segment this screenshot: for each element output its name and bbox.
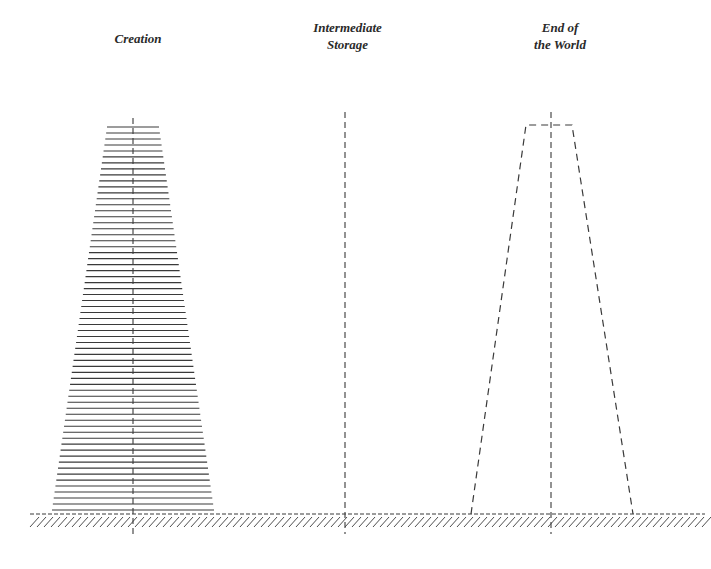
ground-hatch (79, 517, 88, 527)
ground-hatch (135, 517, 144, 527)
ground-hatch (702, 517, 711, 527)
ground-hatch (464, 517, 473, 527)
ground-hatch (30, 517, 39, 527)
ground-hatch (646, 517, 655, 527)
ground-hatch (401, 517, 410, 527)
ground-hatch (541, 517, 550, 527)
ground-hatch (37, 517, 46, 527)
ground-hatch (100, 517, 109, 527)
ground-hatch (352, 517, 361, 527)
ground-hatch (254, 517, 263, 527)
ground-hatch (142, 517, 151, 527)
ground-hatch (156, 517, 165, 527)
ground-hatch (667, 517, 676, 527)
ground-hatch (191, 517, 200, 527)
ground-hatch (310, 517, 319, 527)
ground-line (30, 514, 711, 527)
ground-hatch (478, 517, 487, 527)
ground-hatch (380, 517, 389, 527)
ground-hatch (681, 517, 690, 527)
ground-hatch (450, 517, 459, 527)
ground-hatch (632, 517, 641, 527)
ground-hatch (198, 517, 207, 527)
ground-hatch (282, 517, 291, 527)
ground-hatch (604, 517, 613, 527)
ground-hatch (219, 517, 228, 527)
end-trapezoid (471, 125, 633, 514)
ground-hatch (149, 517, 158, 527)
ground-hatch (562, 517, 571, 527)
ground-hatch (576, 517, 585, 527)
ground-hatch (387, 517, 396, 527)
ground-hatch (303, 517, 312, 527)
ground-hatch (429, 517, 438, 527)
ground-hatch (436, 517, 445, 527)
ground-hatch (226, 517, 235, 527)
ground-hatch (212, 517, 221, 527)
ground-hatch (114, 517, 123, 527)
ground-hatch (422, 517, 431, 527)
ground-hatch (324, 517, 333, 527)
ground-hatch (569, 517, 578, 527)
ground-hatch (471, 517, 480, 527)
ground-hatch (317, 517, 326, 527)
ground-hatch (548, 517, 557, 527)
ground-hatch (499, 517, 508, 527)
ground-hatch (121, 517, 130, 527)
ground-hatch (240, 517, 249, 527)
ground-hatch (345, 517, 354, 527)
ground-hatch (373, 517, 382, 527)
ground-hatch (618, 517, 627, 527)
ground-hatch (233, 517, 242, 527)
ground-hatch (660, 517, 669, 527)
ground-hatch (492, 517, 501, 527)
ground-hatch (296, 517, 305, 527)
center-axes (133, 112, 551, 536)
ground-hatch (65, 517, 74, 527)
ground-hatch (289, 517, 298, 527)
ground-hatch (408, 517, 417, 527)
ground-hatch (107, 517, 116, 527)
ground-hatch (590, 517, 599, 527)
ground-hatch (506, 517, 515, 527)
ground-hatch (520, 517, 529, 527)
ground-hatch (625, 517, 634, 527)
ground-hatch (44, 517, 53, 527)
end-of-world-outline (471, 125, 633, 514)
ground-hatch (674, 517, 683, 527)
ground-hatch (457, 517, 466, 527)
ground-hatch (170, 517, 179, 527)
ground-hatch (695, 517, 704, 527)
ground-hatch (51, 517, 60, 527)
ground-hatch (394, 517, 403, 527)
ground-hatch (639, 517, 648, 527)
storage-diagram (0, 0, 711, 569)
ground-hatch (534, 517, 543, 527)
ground-hatch (58, 517, 67, 527)
ground-hatch (653, 517, 662, 527)
ground-hatch (275, 517, 284, 527)
ground-hatch (485, 517, 494, 527)
ground-hatch (72, 517, 81, 527)
ground-hatch (261, 517, 270, 527)
ground-hatch (93, 517, 102, 527)
ground-hatch (555, 517, 564, 527)
ground-hatch (177, 517, 186, 527)
ground-hatch (443, 517, 452, 527)
ground-hatch (331, 517, 340, 527)
ground-hatch (513, 517, 522, 527)
ground-hatch (688, 517, 697, 527)
ground-hatch (86, 517, 95, 527)
ground-hatch (163, 517, 172, 527)
ground-hatch (597, 517, 606, 527)
ground-hatch (527, 517, 536, 527)
ground-hatch (247, 517, 256, 527)
ground-hatch (359, 517, 368, 527)
ground-hatch (611, 517, 620, 527)
ground-hatch (338, 517, 347, 527)
ground-hatch (415, 517, 424, 527)
ground-hatch (205, 517, 214, 527)
ground-hatch (583, 517, 592, 527)
ground-hatch (366, 517, 375, 527)
ground-hatch (184, 517, 193, 527)
